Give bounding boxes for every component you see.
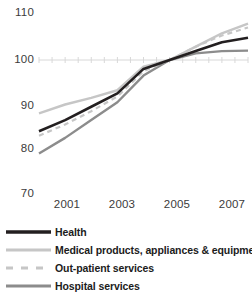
plot-area: 110 100 90 80 70 2001 2003 2005 2007: [0, 0, 252, 220]
legend-item-hospital-services: Hospital services: [0, 277, 252, 295]
chart-legend: Health Medical products, appliances & eq…: [0, 223, 252, 295]
legend-item-medical-products: Medical products, appliances & equipment: [0, 241, 252, 259]
legend-item-health: Health: [0, 223, 252, 241]
plot-svg: [0, 0, 252, 220]
x-axis-tick-2001: 2001: [47, 198, 87, 210]
y-axis-tick-80: 80: [4, 142, 34, 154]
index-line-chart: 110 100 90 80 70 2001 2003 2005 2007 Hea…: [0, 0, 252, 297]
dashed-lightgray-line-icon: [6, 261, 51, 275]
solid-lightgray-line-icon: [6, 243, 51, 257]
y-axis-tick-70: 70: [4, 187, 34, 199]
solid-black-line-icon: [6, 225, 51, 239]
legend-label-hospital-services: Hospital services: [55, 280, 140, 292]
x-axis-tick-2007: 2007: [212, 198, 252, 210]
x-axis-tick-2003: 2003: [102, 198, 142, 210]
legend-label-health: Health: [55, 226, 87, 238]
y-axis-tick-100: 100: [4, 53, 34, 65]
y-axis-tick-90: 90: [4, 99, 34, 111]
legend-label-out-patient-services: Out-patient services: [55, 262, 154, 274]
x-axis-tick-2005: 2005: [157, 198, 197, 210]
legend-item-out-patient-services: Out-patient services: [0, 259, 252, 277]
y-axis-tick-110: 110: [4, 6, 34, 18]
solid-gray-line-icon: [6, 279, 51, 293]
legend-label-medical-products: Medical products, appliances & equipment: [55, 244, 252, 256]
